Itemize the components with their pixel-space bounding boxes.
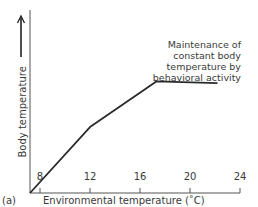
x-tick-label: 8: [37, 171, 43, 182]
x-axis-label: Environmental temperature (˚C): [43, 195, 205, 206]
up-arrow-icon: [18, 16, 25, 57]
panel-label: (a): [2, 195, 16, 206]
x-tick-label: 20: [184, 171, 197, 182]
plateau-annotation: Maintenance of constant body temperature…: [153, 39, 241, 83]
annotation-line: constant body: [153, 50, 241, 61]
x-tick-label: 12: [84, 171, 97, 182]
annotation-line: behavioral activity: [153, 72, 241, 83]
x-tick-label: 16: [134, 171, 147, 182]
annotation-line: temperature by: [153, 61, 241, 72]
x-ticks: [40, 188, 240, 193]
annotation-line: Maintenance of: [153, 39, 241, 50]
x-tick-label: 24: [234, 171, 247, 182]
y-axis-label: Body temperature: [17, 78, 28, 158]
